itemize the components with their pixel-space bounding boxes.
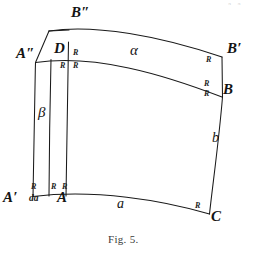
right-angle-marker-a-left: R bbox=[51, 183, 56, 191]
curve-inner-vertical bbox=[66, 42, 69, 196]
vertex-label-A-double-prime: A″ bbox=[16, 46, 35, 61]
figure-caption: Fig. 5. bbox=[108, 233, 139, 245]
right-angle-marker-b-below: R bbox=[204, 90, 209, 98]
edge-topleft-slant bbox=[36, 31, 50, 63]
geometric-diagram bbox=[0, 0, 265, 255]
right-angle-marker-d-right: R bbox=[73, 49, 78, 57]
right-angle-marker-a-right: R bbox=[62, 183, 67, 191]
vertex-label-C: C bbox=[211, 209, 221, 224]
curve-left-inner bbox=[49, 60, 51, 197]
vertex-label-B: B bbox=[223, 82, 233, 97]
page-header-artifact: a. a bbox=[228, 0, 242, 5]
right-angle-marker-c: R bbox=[195, 202, 200, 210]
right-angle-marker-d-below-left: R bbox=[60, 62, 65, 70]
curve-left-outer bbox=[33, 63, 36, 197]
differential-label-da: da bbox=[29, 194, 39, 204]
arc-label-alpha: α bbox=[130, 43, 138, 58]
right-angle-marker-b-prime: R bbox=[206, 56, 211, 64]
right-angle-marker-d-below-right: R bbox=[73, 62, 78, 70]
vertex-label-A-prime: A′ bbox=[3, 190, 18, 205]
vertex-label-B-prime: B′ bbox=[227, 41, 242, 56]
arc-label-beta: β bbox=[38, 105, 45, 120]
right-angle-marker-b-above: R bbox=[204, 80, 209, 88]
curve-right-lower bbox=[210, 97, 223, 214]
vertex-label-D: D bbox=[54, 41, 65, 56]
figure-root: A″ B″ B′ B D A′ A C α β a b R R R R R R … bbox=[0, 0, 265, 255]
vertex-label-B-double-prime: B″ bbox=[71, 5, 90, 20]
right-angle-marker-a-prime: R bbox=[31, 183, 36, 191]
arc-label-a: a bbox=[117, 197, 124, 211]
arc-label-b: b bbox=[212, 131, 219, 145]
vertex-label-A: A bbox=[57, 190, 67, 205]
